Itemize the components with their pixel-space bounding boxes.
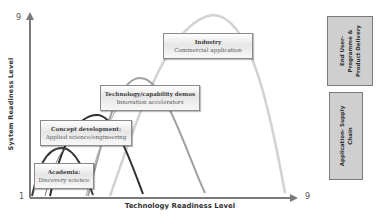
side-box-end-user: End User- Programme & Product Delivery [327, 16, 373, 86]
y-axis-arrow-icon [26, 12, 34, 20]
stage-box-industry: Industry Commercial application [163, 33, 253, 59]
trl-srl-diagram: 9 1 9 System Readiness Level Technology … [0, 0, 389, 219]
side-box-line: Programme & [346, 25, 354, 77]
stage-subtitle: Innovation accelerators [101, 98, 199, 106]
stage-subtitle: Discovery science [35, 176, 93, 184]
side-box-line: End User- [338, 25, 346, 77]
stage-title: Concept development: [41, 125, 131, 133]
x-axis-arrow-icon [290, 194, 298, 202]
side-box-supply-chain: Application- Supply Chain [329, 92, 363, 180]
stage-box-academia: Academia: Discovery science [34, 163, 94, 189]
stage-box-tech-demos: Technology/capability demos Innovation a… [100, 85, 200, 111]
x-max-tick: 9 [305, 192, 310, 201]
stage-title: Academia: [35, 168, 93, 176]
stage-subtitle: Commercial application [164, 46, 252, 54]
side-box-line: Product Delivery [354, 25, 362, 77]
stage-title: Industry [164, 38, 252, 46]
y-min-tick: 1 [19, 192, 24, 201]
side-box-line: Chain [346, 106, 354, 167]
stage-box-concept: Concept development: Applied science/eng… [40, 120, 132, 146]
y-axis-label: System Readiness Level [7, 49, 15, 159]
y-max-tick: 9 [16, 13, 21, 22]
stage-subtitle: Applied science/engineering [41, 133, 131, 141]
x-axis-label: Technology Readiness Level [110, 202, 250, 210]
stage-title: Technology/capability demos [101, 90, 199, 98]
side-box-line: Application- Supply [338, 106, 346, 167]
